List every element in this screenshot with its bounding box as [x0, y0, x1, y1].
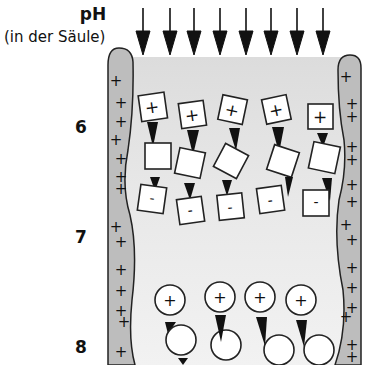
arrow-down-icon	[239, 8, 253, 55]
svg-text:+: +	[346, 279, 359, 297]
svg-text:+: +	[213, 288, 226, 307]
svg-text:+: +	[163, 291, 176, 310]
svg-text:+: +	[184, 104, 201, 126]
molecule-chain-square: + -	[213, 95, 248, 220]
ph-axis-title: pH	[58, 4, 128, 24]
svg-text:+: +	[346, 231, 359, 249]
svg-text:-: -	[313, 194, 318, 210]
svg-text:+: +	[340, 68, 353, 86]
arrow-down-icon	[316, 8, 330, 55]
arrow-down-icon	[163, 8, 177, 55]
svg-text:+: +	[115, 113, 128, 131]
svg-text:+: +	[346, 259, 359, 277]
svg-text:+: +	[346, 176, 359, 194]
ph-level-7: 7	[75, 227, 87, 247]
svg-text:+: +	[110, 72, 123, 90]
svg-text:+: +	[118, 313, 131, 331]
svg-text:+: +	[115, 180, 128, 198]
flow-arrows	[136, 8, 330, 55]
svg-text:+: +	[115, 94, 128, 112]
arrow-down-icon	[290, 8, 304, 55]
svg-text:+: +	[346, 348, 359, 365]
svg-text:+: +	[115, 150, 128, 168]
ph-level-6: 6	[75, 117, 87, 137]
svg-text:+: +	[115, 261, 128, 279]
svg-text:+: +	[340, 308, 353, 326]
svg-text:+: +	[110, 131, 123, 149]
svg-text:+: +	[115, 233, 128, 251]
svg-text:+: +	[346, 151, 359, 169]
arrow-down-icon	[187, 8, 201, 55]
arrow-down-icon	[213, 8, 227, 55]
svg-text:+: +	[253, 288, 266, 307]
ph-axis-subtitle: (in der Säule)	[4, 28, 105, 46]
svg-text:+: +	[346, 193, 359, 211]
arrow-down-icon	[136, 8, 150, 55]
svg-text:+: +	[294, 291, 307, 310]
svg-text:+: +	[346, 108, 359, 126]
chromatofocusing-column-diagram: +++ +++ +++ +++ ++ +++ +++ +++ +++ +++ +…	[0, 0, 379, 365]
arrow-down-icon	[264, 8, 278, 55]
ph-level-8: 8	[75, 337, 87, 357]
svg-text:+: +	[115, 282, 128, 300]
svg-text:+: +	[143, 96, 160, 118]
svg-text:+: +	[313, 107, 327, 127]
svg-text:+: +	[115, 343, 128, 361]
